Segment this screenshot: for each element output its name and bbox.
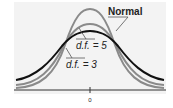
normal-leader-line — [116, 17, 128, 31]
df5-label: d.f. = 5 — [76, 40, 107, 51]
df5-curve — [16, 24, 164, 85]
zero-label: 0 — [88, 97, 92, 103]
df3-curve — [16, 31, 164, 80]
distribution-diagram: Normal d.f. = 5 d.f. = 3 0 — [0, 0, 173, 108]
df3-leader-line — [66, 48, 72, 58]
df3-label: d.f. = 3 — [66, 59, 97, 70]
normal-label: Normal — [108, 6, 143, 17]
